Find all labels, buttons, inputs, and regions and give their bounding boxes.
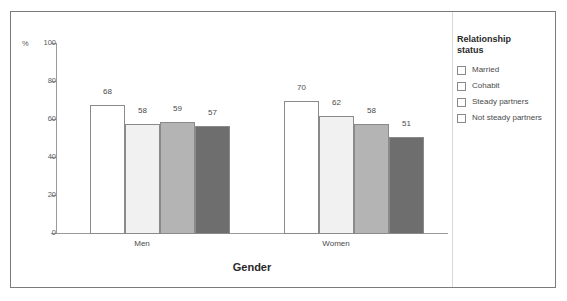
- bar-value-men-married: 68: [90, 88, 125, 96]
- legend-swatch-married: [457, 66, 466, 75]
- legend-item-not-steady-partners[interactable]: Not steady partners: [457, 114, 555, 123]
- legend-title: Relationshipstatus: [457, 34, 527, 57]
- bar-women-steady[interactable]: [354, 124, 389, 234]
- bar-men-married[interactable]: [90, 105, 125, 234]
- bar-value-men-notsteady: 57: [195, 109, 230, 117]
- legend-item-steady-partners[interactable]: Steady partners: [457, 98, 555, 107]
- bar-value-men-cohabit: 58: [125, 107, 160, 115]
- legend-label-steady-partners: Steady partners: [472, 98, 528, 106]
- bar-women-notsteady[interactable]: [389, 137, 424, 234]
- legend-divider: [452, 12, 453, 287]
- y-tick-80: 80: [11, 81, 56, 82]
- plot-area: % 100 80 60 40 20 0 68 58 59: [11, 12, 452, 287]
- y-tick-100: 100: [11, 43, 56, 44]
- legend-label-married: Married: [472, 66, 499, 74]
- bar-value-women-married: 70: [284, 84, 319, 92]
- legend-title-line2: status: [457, 45, 484, 55]
- legend-item-married[interactable]: Married: [457, 66, 555, 75]
- y-tick-40: 40: [11, 157, 56, 158]
- x-axis-title: Gender: [56, 262, 448, 273]
- y-tick-label-80: 80: [22, 77, 56, 85]
- bar-men-cohabit[interactable]: [125, 124, 160, 234]
- legend-label-not-steady-partners: Not steady partners: [472, 114, 542, 122]
- bar-women-married[interactable]: [284, 101, 319, 234]
- legend-item-cohabit[interactable]: Cohabit: [457, 82, 555, 91]
- bar-value-women-notsteady: 51: [389, 120, 424, 128]
- legend-title-line1: Relationship: [457, 34, 511, 44]
- bar-value-men-steady: 59: [160, 105, 195, 113]
- bar-value-women-steady: 58: [354, 107, 389, 115]
- group-label-women: Women: [261, 240, 411, 248]
- y-tick-label-100: 100: [22, 39, 56, 47]
- bar-women-cohabit[interactable]: [319, 116, 354, 234]
- y-tick-label-60: 60: [22, 115, 56, 123]
- bar-value-women-cohabit: 62: [319, 99, 354, 107]
- legend-swatch-steady-partners: [457, 98, 466, 107]
- y-tick-label-20: 20: [22, 191, 56, 199]
- legend-label-cohabit: Cohabit: [472, 82, 500, 90]
- y-tick-20: 20: [11, 195, 56, 196]
- bar-men-steady[interactable]: [160, 122, 195, 234]
- chart-figure: % 100 80 60 40 20 0 68 58 59: [10, 11, 556, 288]
- y-axis-line: [56, 43, 57, 234]
- group-label-men: Men: [67, 240, 217, 248]
- y-tick-label-40: 40: [22, 153, 56, 161]
- legend: Relationshipstatus Married Cohabit Stead…: [457, 34, 555, 130]
- y-tick-label-0: 0: [22, 229, 56, 237]
- y-tick-0: 0: [11, 233, 56, 234]
- legend-swatch-not-steady-partners: [457, 114, 466, 123]
- y-tick-60: 60: [11, 119, 56, 120]
- bar-men-notsteady[interactable]: [195, 126, 230, 234]
- legend-swatch-cohabit: [457, 82, 466, 91]
